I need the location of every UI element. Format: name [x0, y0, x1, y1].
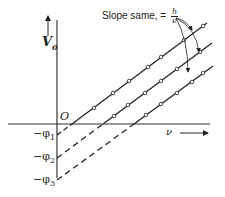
- origin-label: O: [60, 110, 69, 123]
- line-phi3: [57, 66, 213, 180]
- slope-annotation-arrows: [176, 18, 199, 72]
- intercept-label-phi3: −φ3: [33, 173, 55, 188]
- line-phi2: [57, 43, 212, 158]
- intercept-label-phi2: −φ2: [33, 150, 55, 165]
- intercept-label-phi1: −φ1: [33, 127, 55, 142]
- x-axis-label: ν: [166, 126, 172, 137]
- photoelectric-diagram: [0, 0, 225, 197]
- slope-annotation: Slope same, = h e: [102, 8, 178, 25]
- y-axis-label: V0: [42, 34, 58, 52]
- h-over-e-fraction: h e: [171, 8, 178, 25]
